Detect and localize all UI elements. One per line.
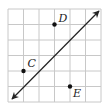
point-label-e: E <box>72 87 81 100</box>
point-d <box>52 22 56 26</box>
point-e <box>68 84 72 88</box>
point-c <box>21 69 25 73</box>
grid-diagram: DCE <box>0 0 104 106</box>
point-label-c: C <box>28 57 37 70</box>
point-label-d: D <box>58 12 68 25</box>
